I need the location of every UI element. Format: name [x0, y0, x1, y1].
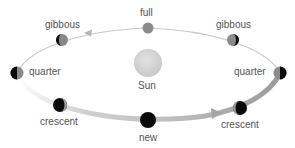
moon-quarter-right-icon: [274, 67, 287, 80]
label-sun: Sun: [138, 81, 156, 91]
label-quarter-left: quarter: [29, 67, 61, 77]
moon-gibbous-left-icon: [56, 34, 68, 46]
sun-icon: [134, 49, 162, 77]
orbit-arrow-lower-icon: [211, 108, 222, 119]
label-gibbous-left: gibbous: [45, 20, 80, 30]
label-quarter-right: quarter: [234, 67, 266, 77]
moon-crescent-right-icon: [233, 101, 247, 115]
label-crescent-left: crescent: [40, 117, 78, 127]
moon-full-icon: [143, 23, 154, 34]
label-new: new: [139, 133, 157, 143]
moon-crescent-left-icon: [53, 98, 67, 112]
moon-quarter-left-icon: [11, 67, 24, 80]
label-gibbous-right: gibbous: [216, 20, 251, 30]
moon-phase-diagram: full gibbous gibbous quarter quarter cre…: [0, 0, 295, 148]
label-full: full: [140, 8, 153, 18]
moon-gibbous-right-icon: [227, 34, 239, 46]
label-crescent-right: crescent: [221, 120, 259, 130]
moon-new-icon: [140, 112, 156, 128]
